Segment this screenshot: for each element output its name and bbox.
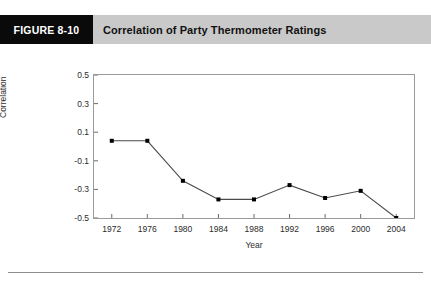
x-tick-label: 1992 — [280, 224, 299, 234]
data-point-marker — [216, 197, 220, 201]
x-axis-tick-labels: 197219761980198419881992199620002004 — [93, 224, 415, 238]
chart-region: Correlation 0.50.30.1-0.1-0.3-0.5 197219… — [0, 44, 431, 259]
plot-frame — [93, 74, 415, 219]
data-series-line — [112, 141, 396, 218]
x-tick-label: 1984 — [209, 224, 228, 234]
x-tick-label: 1976 — [138, 224, 157, 234]
y-tick-label: 0.1 — [63, 127, 89, 137]
data-point-marker — [110, 139, 114, 143]
data-point-marker — [359, 189, 363, 193]
bottom-divider-rule — [8, 272, 423, 273]
series-marker-group — [110, 139, 398, 218]
figure-title: Correlation of Party Thermometer Ratings — [103, 15, 326, 44]
line-chart-svg — [94, 75, 414, 218]
y-tick-label: 0.3 — [63, 99, 89, 109]
figure-header-band: FIGURE 8-10 Correlation of Party Thermom… — [0, 15, 431, 44]
x-tick-label: 1988 — [245, 224, 264, 234]
data-point-marker — [181, 179, 185, 183]
data-point-marker — [252, 197, 256, 201]
x-tick-label: 1980 — [173, 224, 192, 234]
x-tick-label: 1972 — [102, 224, 121, 234]
y-tick-label: -0.5 — [63, 213, 89, 223]
data-point-marker — [145, 139, 149, 143]
data-point-marker — [288, 183, 292, 187]
x-tick-label: 1996 — [316, 224, 335, 234]
data-point-marker — [323, 196, 327, 200]
x-tick-label: 2000 — [351, 224, 370, 234]
data-point-marker — [394, 216, 398, 218]
figure-number-label: FIGURE 8-10 — [14, 24, 80, 36]
x-axis-title: Year — [93, 240, 415, 250]
figure-number-box: FIGURE 8-10 — [0, 15, 93, 44]
y-tick-label: -0.1 — [63, 156, 89, 166]
y-axis-tick-labels: 0.50.30.1-0.1-0.3-0.5 — [59, 74, 89, 219]
x-tick-label: 2004 — [387, 224, 406, 234]
y-tick-label: 0.5 — [63, 70, 89, 80]
series-line-group — [112, 141, 396, 218]
y-tick-label: -0.3 — [63, 184, 89, 194]
axis-tick-marks — [94, 75, 396, 218]
y-axis-title: Correlation — [0, 76, 8, 118]
